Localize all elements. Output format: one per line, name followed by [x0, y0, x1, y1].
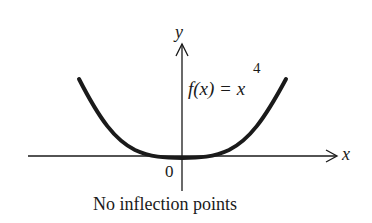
caption: No inflection points: [93, 194, 237, 215]
origin-label: 0: [165, 162, 174, 182]
function-label-lhs: f(x) = x: [188, 78, 245, 99]
graph-canvas: [0, 0, 372, 223]
y-axis: [176, 44, 188, 191]
function-exponent: 4: [253, 60, 261, 77]
function-label: f(x) = x: [188, 78, 245, 100]
y-axis-label: y: [175, 22, 183, 43]
x-axis-label: x: [342, 144, 350, 165]
